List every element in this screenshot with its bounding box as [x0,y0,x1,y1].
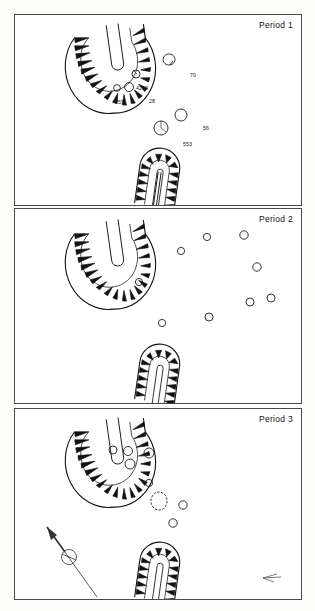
panel-period-2: Period 2 [14,208,302,404]
plan-drawing-period-3 [15,409,301,599]
apsidal-hachured-building-2 [134,342,182,403]
curvilinear-hachured-enclosure-3 [60,413,162,513]
feature-label-28: 28 [149,99,155,104]
plan-drawing-period-1 [15,15,301,205]
apsidal-hachured-building-1 [134,146,182,205]
feature-label-553: 553 [183,142,192,147]
feature-label-4250: 4250 [136,86,148,91]
feature-circles-period-1 [114,54,187,135]
figure-page: Period 1 [0,0,315,611]
feature-circles-period-2 [135,231,275,327]
panel-period-1: Period 1 [14,14,302,206]
feature-label-70: 70 [190,73,196,78]
plan-drawing-period-2 [15,209,301,403]
feature-circles-period-3 [109,446,187,527]
feature-label-4255: 4255 [112,100,124,105]
panel-period-3: Period 3 [14,408,302,600]
curvilinear-hachured-enclosure-1 [60,19,162,119]
north-arrow [47,527,97,597]
direction-arrow [263,574,281,582]
feature-label-56: 56 [203,126,209,131]
curvilinear-hachured-enclosure-2 [60,215,162,315]
apsidal-hachured-building-3 [134,540,182,599]
